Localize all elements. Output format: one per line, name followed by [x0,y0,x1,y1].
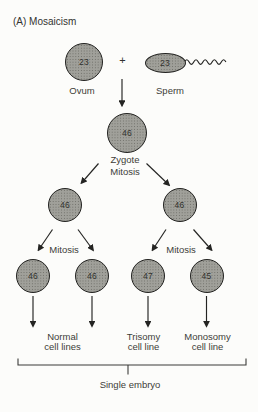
sperm-cell: 23 [145,53,186,73]
gen3-cell-4: 45 [190,259,224,293]
zygote-mitosis-arrow-right [147,164,170,186]
embryo-bracket [18,359,246,366]
mitosis-label-right: Mitosis [166,245,196,256]
sperm-chromosome-count: 23 [160,58,170,68]
zygote-label-line1: Zygote [110,154,140,166]
zygote-chromosome-count: 46 [122,128,132,138]
outcome-label-normal: Normal cell lines [44,332,80,353]
gen3-cell-2: 46 [75,259,109,293]
gen2-left-count: 46 [60,200,70,210]
sperm-label: Sperm [156,86,184,97]
outcome-trisomy-line2: cell line [127,342,160,353]
mitosis2-arrow-3 [153,230,167,251]
gen2-right-count: 46 [175,200,185,210]
gen3-cell-3: 47 [131,259,165,293]
plus-sign: + [119,55,125,66]
gen3-count-3: 47 [143,271,153,281]
figure-title: (A) Mosaicism [13,17,76,28]
gen3-count-1: 46 [28,271,38,281]
gen2-cell-right: 46 [163,188,197,222]
mosaicism-diagram: (A) Mosaicism 23 + 23 Ovum Sperm 46 Zygo… [0,0,258,412]
outcome-normal-line1: Normal [44,332,80,343]
zygote-label: Zygote Mitosis [110,154,140,177]
outcome-trisomy-line1: Trisomy [127,332,160,343]
mitosis-label-left: Mitosis [49,245,79,256]
gen3-cell-1: 46 [16,259,50,293]
ovum-cell: 23 [65,43,103,81]
sperm-tail [185,60,226,65]
zygote-mitosis-arrow-left [82,164,99,184]
single-embryo-label: Single embryo [100,380,161,391]
ovum-chromosome-count: 23 [79,57,89,67]
outcome-normal-line2: cell lines [44,342,80,353]
zygote-cell: 46 [107,113,147,153]
outcome-monosomy-line1: Monosomy [184,332,230,343]
zygote-mitosis-label: Mitosis [110,166,140,178]
outcome-monosomy-line2: cell line [184,342,230,353]
mitosis2-arrow-2 [78,230,93,251]
outcome-label-trisomy: Trisomy cell line [127,332,160,353]
gen3-count-2: 46 [87,271,97,281]
outcome-label-monosomy: Monosomy cell line [184,332,230,353]
gen3-count-4: 45 [202,271,212,281]
ovum-label: Ovum [69,86,94,97]
gen2-cell-left: 46 [48,188,82,222]
